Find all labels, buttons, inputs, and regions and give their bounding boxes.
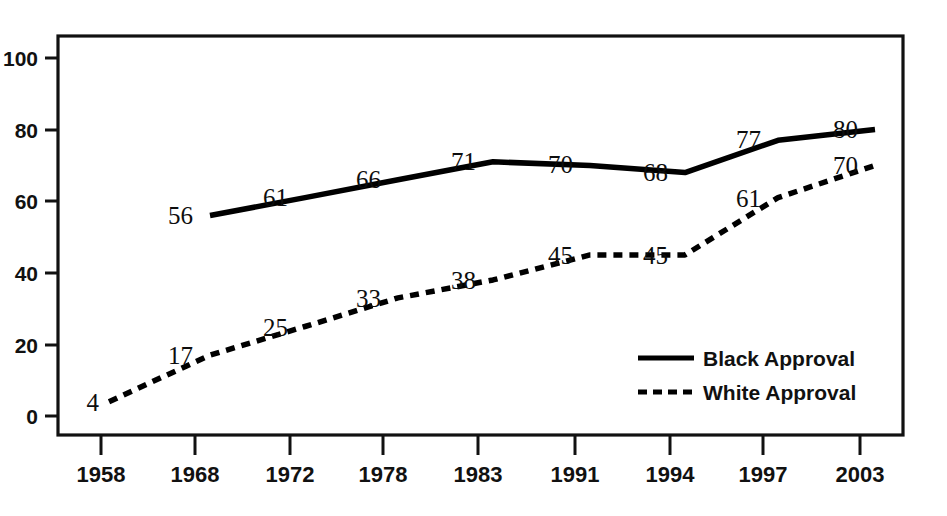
x-axis-label-1991: 1991 (551, 462, 600, 487)
chart-container: 100 80 60 40 20 0 1958 1968 1972 1978 19… (0, 0, 947, 516)
x-axis-tick-labels: 1958 1968 1972 1978 1983 1991 1994 1997 … (77, 462, 885, 487)
legend-label-white-approval: White Approval (703, 381, 856, 404)
data-label: 56 (168, 202, 193, 229)
data-label: 61 (736, 185, 761, 212)
x-axis-label-1997: 1997 (739, 462, 788, 487)
data-label: 77 (736, 126, 761, 153)
approval-line-chart: 100 80 60 40 20 0 1958 1968 1972 1978 19… (0, 0, 947, 516)
data-label: 80 (833, 116, 858, 143)
data-label: 70 (548, 151, 573, 178)
x-axis-label-1994: 1994 (646, 462, 696, 487)
y-axis-label-100: 100 (3, 47, 38, 70)
legend-label-black-approval: Black Approval (703, 347, 855, 370)
x-axis-label-2003: 2003 (836, 462, 885, 487)
y-axis-label-20: 20 (15, 334, 38, 357)
x-axis-label-1958: 1958 (77, 462, 126, 487)
y-axis-label-60: 60 (15, 190, 38, 213)
data-label: 38 (451, 267, 476, 294)
data-label: 25 (263, 314, 288, 341)
data-label: 17 (168, 342, 193, 369)
data-label: 45 (643, 242, 668, 269)
data-label: 33 (356, 285, 381, 312)
data-label: 4 (87, 389, 100, 416)
data-label: 70 (833, 152, 858, 179)
data-label: 71 (451, 148, 476, 175)
x-axis-label-1978: 1978 (359, 462, 408, 487)
x-axis-label-1968: 1968 (171, 462, 220, 487)
chart-background (0, 0, 947, 516)
data-label: 45 (548, 242, 573, 269)
x-axis-label-1983: 1983 (454, 462, 503, 487)
y-axis-label-80: 80 (15, 119, 38, 142)
y-axis-label-40: 40 (15, 262, 38, 285)
data-label: 68 (643, 159, 668, 186)
data-label: 61 (263, 184, 288, 211)
data-label: 66 (356, 166, 381, 193)
y-axis-label-0: 0 (26, 405, 38, 428)
x-axis-label-1972: 1972 (266, 462, 315, 487)
